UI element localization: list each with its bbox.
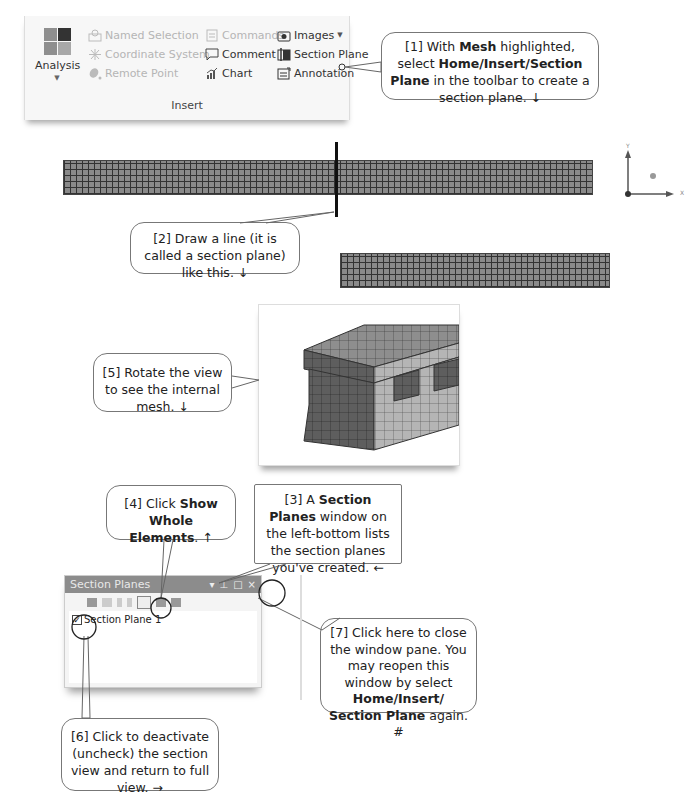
callout-step-7: [7] Click here to close the window pane.… xyxy=(320,618,477,713)
show-whole-elements-button[interactable] xyxy=(137,596,151,609)
triad-y-label: Y xyxy=(626,142,630,149)
comment-button[interactable]: Comment xyxy=(205,45,284,64)
section-plane-label: Section Plane xyxy=(294,45,369,64)
ribbon-column-1: Named Selection Coordinate System Remote… xyxy=(88,26,210,83)
annotation-icon xyxy=(277,67,291,80)
callout-step-1: [1] With Mesh highlighted, select Home/I… xyxy=(381,32,599,100)
commands-button[interactable]: Commands xyxy=(205,26,284,45)
mesh-strip-section xyxy=(340,253,610,288)
camera-icon xyxy=(277,29,291,42)
callout-text: [3] A xyxy=(285,492,319,507)
section-mesh-3d-icon xyxy=(259,305,459,465)
section-planes-list: ✓ Section Plane 1 xyxy=(69,611,257,683)
callout-text: [7] Click here to close the window pane.… xyxy=(330,625,467,690)
pane-menu-icon[interactable]: ▾ xyxy=(209,576,214,593)
callout-text: [1] With xyxy=(405,39,459,54)
callout-step-4: [4] Click Show Whole Elements. ↑ xyxy=(106,485,236,540)
callout-text: in the toolbar to create a section plane… xyxy=(430,73,590,105)
annotation-button[interactable]: Annotation xyxy=(277,64,369,83)
callout-step-5: [5] Rotate the view to see the internal … xyxy=(93,353,232,412)
coordinate-system-button[interactable]: Coordinate System xyxy=(88,45,210,64)
delete-plane-icon[interactable] xyxy=(127,598,132,607)
coordinate-system-icon xyxy=(88,48,102,61)
cap-dropdown-icon[interactable] xyxy=(171,598,181,607)
coordinate-system-label: Coordinate System xyxy=(105,45,210,64)
named-selection-button[interactable]: Named Selection xyxy=(88,26,210,45)
ribbon-insert-group: Analysis ▼ Named Selection Coordinate Sy… xyxy=(24,16,350,120)
commands-label: Commands xyxy=(222,26,284,45)
chart-label: Chart xyxy=(222,64,252,83)
named-selection-label: Named Selection xyxy=(105,26,199,45)
pane-title-bar[interactable]: Section Planes ▾ ⊥ □ × xyxy=(65,576,261,593)
pane-title: Section Planes xyxy=(70,578,150,591)
triad-arrows-icon xyxy=(618,144,698,204)
ribbon-group-label: Insert xyxy=(25,99,349,112)
analysis-label: Analysis xyxy=(35,59,79,72)
section-plane-icon xyxy=(277,48,291,61)
callout-step-3: [3] A Section Planes window on the left-… xyxy=(254,484,402,564)
comment-label: Comment xyxy=(222,45,276,64)
section-plane-line[interactable] xyxy=(335,142,338,217)
list-item[interactable]: ✓ Section Plane 1 xyxy=(72,614,254,625)
callout-text: . ↑ xyxy=(194,530,212,545)
chart-button[interactable]: Chart xyxy=(205,64,284,83)
close-icon[interactable]: × xyxy=(248,576,256,593)
axis-triad: Y X xyxy=(618,144,698,204)
section-plane-button[interactable]: Section Plane xyxy=(277,45,369,64)
images-label: Images xyxy=(294,26,334,45)
chart-icon xyxy=(205,67,219,80)
ribbon-column-3: Images ▼ Section Plane Annotation xyxy=(277,26,369,83)
pane-toolbar xyxy=(65,593,261,611)
callout-text: [5] Rotate the view to see the internal … xyxy=(103,365,223,414)
new-section-plane-icon[interactable] xyxy=(87,598,97,607)
section-planes-pane: Section Planes ▾ ⊥ □ × ✓ Section Plane 1 xyxy=(64,575,262,688)
chevron-down-icon: ▼ xyxy=(337,26,342,45)
remote-point-label: Remote Point xyxy=(105,64,178,83)
analysis-button[interactable]: Analysis ▼ xyxy=(35,28,79,82)
section-plane-item-label: Section Plane 1 xyxy=(84,614,161,625)
show-plane-icon[interactable] xyxy=(117,598,122,607)
callout-bold: Mesh xyxy=(459,39,496,54)
comment-icon xyxy=(205,48,219,61)
cap-icon[interactable] xyxy=(156,598,166,607)
3d-mesh-view[interactable] xyxy=(258,304,460,466)
callout-step-6: [6] Click to deactivate (uncheck) the se… xyxy=(61,718,219,791)
pin-icon[interactable]: ⊥ xyxy=(219,576,228,593)
commands-icon xyxy=(205,29,219,42)
chevron-down-icon: ▼ xyxy=(35,74,79,82)
mesh-strip-full xyxy=(63,160,593,195)
remote-point-button[interactable]: Remote Point xyxy=(88,64,210,83)
triad-x-label: X xyxy=(680,189,684,196)
ribbon-column-2: Commands Comment Chart xyxy=(205,26,284,83)
named-selection-icon xyxy=(88,29,102,42)
callout-step-2: [2] Draw a line (it is called a section … xyxy=(130,222,300,274)
analysis-icon xyxy=(44,28,71,55)
remote-point-icon xyxy=(88,67,102,80)
annotation-label: Annotation xyxy=(294,64,354,83)
callout-text: [4] Click xyxy=(124,496,179,511)
section-plane-checkbox[interactable]: ✓ xyxy=(72,615,82,625)
edit-section-plane-icon[interactable] xyxy=(102,598,112,607)
maximize-icon[interactable]: □ xyxy=(233,576,242,593)
images-dropdown[interactable]: Images ▼ xyxy=(277,26,369,45)
callout-text: [2] Draw a line (it is called a section … xyxy=(144,231,285,280)
callout-text: [6] Click to deactivate (uncheck) the se… xyxy=(71,729,209,795)
